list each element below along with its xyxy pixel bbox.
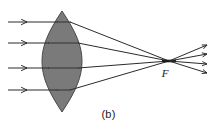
refracted-ray-4	[70, 61, 169, 90]
diverging-rays-group	[169, 45, 207, 73]
lens-shape	[42, 11, 82, 112]
diverging-ray-1	[169, 45, 207, 61]
refracted-rays-group	[70, 22, 169, 90]
diverging-ray-2	[169, 54, 207, 61]
refracted-ray-2	[78, 43, 169, 61]
figure-caption: (b)	[0, 108, 217, 120]
focal-point-label: F	[161, 67, 169, 79]
converging-lens	[42, 11, 82, 112]
lens-ray-diagram-figure: F (b)	[0, 0, 217, 132]
refracted-ray-1	[70, 22, 169, 61]
